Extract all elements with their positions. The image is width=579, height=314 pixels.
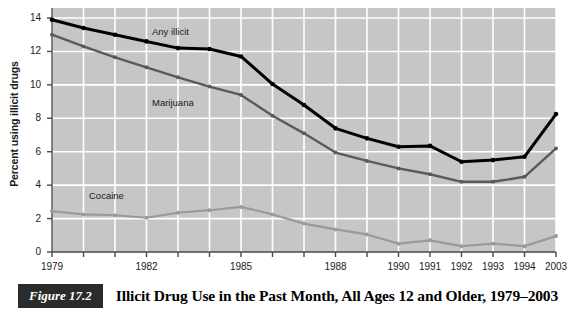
line-chart-svg bbox=[0, 0, 579, 275]
y-axis-tick-label: 14 bbox=[19, 12, 41, 23]
x-axis-tick-label: 2003 bbox=[532, 261, 579, 272]
y-axis-tick-label: 4 bbox=[19, 179, 41, 190]
figure-number-badge: Figure 17.2 bbox=[18, 284, 103, 308]
x-axis-tick-label: 1985 bbox=[217, 261, 265, 272]
chart-area: Percent using illicit drugs 02468101214 … bbox=[0, 0, 579, 275]
y-axis-tick-label: 0 bbox=[19, 246, 41, 257]
y-axis-tick-label: 8 bbox=[19, 112, 41, 123]
x-axis-tick-label: 1988 bbox=[312, 261, 360, 272]
series-label-marijuana: Marijuana bbox=[152, 97, 194, 108]
x-axis-tick-label: 1982 bbox=[123, 261, 171, 272]
x-axis-tick-label: 1979 bbox=[28, 261, 76, 272]
figure-caption-text: Illicit Drug Use in the Past Month, All … bbox=[116, 287, 558, 305]
figure-caption-bar: Figure 17.2 Illicit Drug Use in the Past… bbox=[0, 277, 579, 314]
series-label-cocaine: Cocaine bbox=[89, 190, 124, 201]
y-axis-tick-label: 12 bbox=[19, 45, 41, 56]
series-label-any-illicit: Any illicit bbox=[152, 26, 189, 37]
figure-container: Percent using illicit drugs 02468101214 … bbox=[0, 0, 579, 314]
y-axis-tick-label: 6 bbox=[19, 146, 41, 157]
y-axis-tick-label: 10 bbox=[19, 79, 41, 90]
y-axis-tick-label: 2 bbox=[19, 213, 41, 224]
